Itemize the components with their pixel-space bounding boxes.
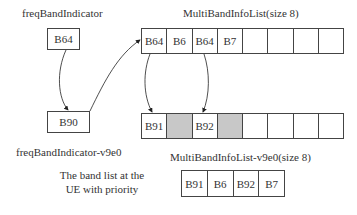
- priority-caption: The band list at the UE with priority: [52, 168, 152, 196]
- list-cell: B64: [193, 29, 218, 53]
- multi-band-info-list: B64 B6 B64 B7: [141, 28, 344, 54]
- arrow-b64-to-b90: [59, 50, 68, 110]
- list-cell: B64: [142, 29, 167, 53]
- list-cell-shaded: [167, 114, 192, 138]
- arrow-b90-to-list: [90, 40, 140, 111]
- list-cell: B6: [208, 171, 234, 196]
- list-cell: [294, 114, 319, 138]
- list-cell: [268, 29, 293, 53]
- list-cell: [243, 29, 268, 53]
- multi-band-info-list-label: MultiBandInfoList(size 8): [183, 7, 299, 19]
- list-cell-shaded: [218, 114, 243, 138]
- freq-band-indicator-box: B64: [47, 28, 80, 50]
- priority-band-list: B91 B6 B92 B7: [181, 170, 285, 197]
- list-cell: [294, 29, 319, 53]
- arrow-cell2-to-b92: [203, 54, 208, 112]
- list-cell: B7: [259, 171, 284, 196]
- priority-caption-line2: UE with priority: [52, 182, 152, 196]
- freq-band-indicator-v9e0-label: freqBandIndicator-v9e0: [16, 146, 121, 158]
- list-cell: B91: [182, 171, 208, 196]
- list-cell: [319, 114, 343, 138]
- multi-band-info-list-v9e0: B91 B92: [141, 113, 344, 139]
- freq-band-indicator-value: B64: [54, 33, 72, 45]
- list-cell: [319, 29, 343, 53]
- freq-band-indicator-label: freqBandIndicator: [22, 7, 103, 19]
- multi-band-info-list-v9e0-label: MultiBandInfoList-v9e0(size 8): [170, 151, 311, 163]
- list-cell: B91: [142, 114, 167, 138]
- freq-band-indicator-v9e0-box: B90: [47, 111, 90, 133]
- priority-caption-line1: The band list at the: [52, 168, 152, 182]
- list-cell: [243, 114, 268, 138]
- list-cell: B7: [218, 29, 243, 53]
- list-cell: B6: [167, 29, 192, 53]
- arrow-cell0-to-b91: [145, 54, 152, 112]
- list-cell: B92: [234, 171, 260, 196]
- freq-band-indicator-v9e0-value: B90: [59, 116, 77, 128]
- list-cell: [268, 114, 293, 138]
- list-cell: B92: [193, 114, 218, 138]
